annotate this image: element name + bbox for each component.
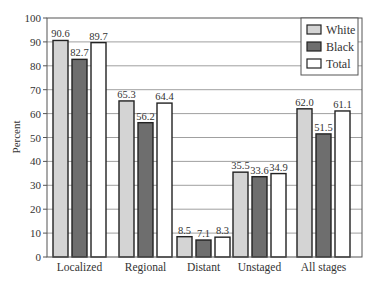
x-category-label: Regional xyxy=(125,261,167,274)
bar-white xyxy=(297,109,312,257)
x-category-label: All stages xyxy=(301,261,347,274)
bar-group-all-stages: 62.051.561.1 xyxy=(295,97,351,257)
y-tick-label: 20 xyxy=(30,203,42,215)
legend-swatch-total xyxy=(307,59,321,68)
bar-value-label: 90.6 xyxy=(51,28,69,39)
bar-group-unstaged: 35.533.634.9 xyxy=(231,160,287,257)
x-category-label: Unstaged xyxy=(238,261,282,274)
bar-value-label: 64.4 xyxy=(155,91,174,102)
legend-swatch-white xyxy=(307,25,321,34)
bar-black xyxy=(252,177,267,257)
x-axis-categories: LocalizedRegionalDistantUnstagedAll stag… xyxy=(57,261,347,274)
bar-group-localized: 90.682.789.7 xyxy=(51,28,107,257)
y-tick-label: 60 xyxy=(30,108,42,120)
bar-group-regional: 65.356.264.4 xyxy=(117,89,174,257)
y-axis-ticks: 0102030405060708090100 xyxy=(25,12,48,263)
x-category-label: Distant xyxy=(187,261,221,273)
bar-total xyxy=(91,43,106,257)
bar-white xyxy=(177,237,192,257)
y-tick-label: 30 xyxy=(30,179,42,191)
bar-value-label: 33.6 xyxy=(250,165,268,176)
y-axis-label: Percent xyxy=(10,121,22,154)
bar-total xyxy=(335,111,350,257)
bar-black xyxy=(138,123,153,257)
bar-value-label: 82.7 xyxy=(70,47,88,58)
bar-value-label: 61.1 xyxy=(333,99,351,110)
bar-white xyxy=(233,172,248,257)
bar-total xyxy=(157,103,172,257)
legend-swatch-black xyxy=(307,42,321,51)
bar-value-label: 8.5 xyxy=(178,225,191,236)
bar-total xyxy=(271,174,286,257)
y-tick-label: 40 xyxy=(30,155,42,167)
y-tick-label: 80 xyxy=(30,60,42,72)
legend-label-total: Total xyxy=(326,57,351,71)
bar-value-label: 7.1 xyxy=(197,228,210,239)
bar-black xyxy=(196,240,211,257)
y-tick-label: 70 xyxy=(30,84,42,96)
bar-black xyxy=(316,134,331,257)
bar-value-label: 35.5 xyxy=(231,160,249,171)
bar-white xyxy=(119,101,134,257)
bar-value-label: 89.7 xyxy=(89,31,107,42)
legend-label-black: Black xyxy=(326,40,354,54)
bar-black xyxy=(72,59,87,257)
bar-value-label: 34.9 xyxy=(269,162,287,173)
bar-total xyxy=(215,237,230,257)
bar-value-label: 56.2 xyxy=(136,111,154,122)
y-tick-label: 100 xyxy=(25,12,42,24)
legend-label-white: White xyxy=(326,23,355,37)
bar-value-label: 65.3 xyxy=(117,89,135,100)
x-category-label: Localized xyxy=(57,261,103,273)
bar-value-label: 51.5 xyxy=(314,122,332,133)
y-tick-label: 10 xyxy=(30,227,42,239)
y-tick-label: 50 xyxy=(30,132,42,144)
y-tick-label: 90 xyxy=(30,36,42,48)
bar-value-label: 8.3 xyxy=(216,225,229,236)
y-tick-label: 0 xyxy=(36,251,42,263)
bar-white xyxy=(53,40,68,257)
bar-value-label: 62.0 xyxy=(295,97,313,108)
bar-chart: 0102030405060708090100 Percent 90.682.78… xyxy=(0,0,375,283)
legend: WhiteBlackTotal xyxy=(301,18,358,75)
bar-group-distant: 8.57.18.3 xyxy=(177,225,230,257)
